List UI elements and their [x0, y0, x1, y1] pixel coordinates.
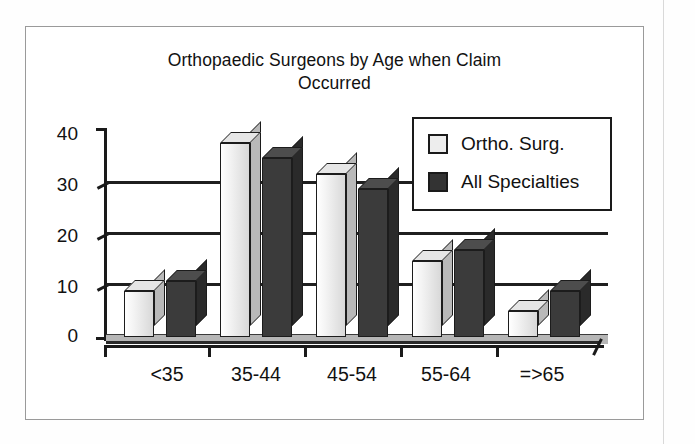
x-axis-line	[104, 345, 604, 348]
x-tick-mark-0	[104, 345, 107, 357]
bar-front-face	[550, 291, 580, 337]
bar-all-specialties-35-44[interactable]	[262, 158, 292, 337]
y-tick-label-20: 20	[18, 225, 78, 247]
bar-front-face	[124, 291, 154, 337]
x-label-lt35: <35	[124, 363, 210, 386]
bar-front-face	[316, 174, 346, 337]
legend-item-ortho-surg[interactable]: Ortho. Surg.	[428, 129, 565, 159]
bar-side-face	[580, 269, 591, 326]
page-right-rule	[663, 0, 664, 444]
bar-ortho-surg-35-44[interactable]	[220, 143, 250, 337]
bar-side-face	[388, 167, 399, 326]
chart-legend: Ortho. Surg. All Specialties	[412, 117, 612, 211]
x-label-65plus: =>65	[494, 363, 590, 386]
page-canvas: Orthopaedic Surgeons by Age when Claim O…	[0, 0, 695, 444]
legend-item-all-specialties[interactable]: All Specialties	[428, 167, 579, 197]
bar-all-specialties-65plus[interactable]	[550, 291, 580, 337]
bar-all-specialties-lt35[interactable]	[166, 281, 196, 337]
bar-ortho-surg-lt35[interactable]	[124, 291, 154, 337]
bar-all-specialties-55-64[interactable]	[454, 250, 484, 337]
legend-label-all-specialties: All Specialties	[461, 171, 579, 193]
chart-floor-front-edge	[106, 341, 600, 344]
bar-side-face	[346, 152, 357, 326]
x-tick-mark-3	[400, 345, 403, 357]
figure-frame: Orthopaedic Surgeons by Age when Claim O…	[25, 26, 644, 420]
bar-ortho-surg-65plus[interactable]	[508, 311, 538, 337]
y-tick-label-0: 0	[18, 325, 78, 347]
bar-front-face	[262, 158, 292, 337]
bar-side-face	[154, 269, 165, 326]
x-label-35-44: 35-44	[208, 363, 304, 386]
bar-front-face	[166, 281, 196, 337]
legend-swatch-icon-all-specialties	[428, 172, 448, 192]
bar-ortho-surg-55-64[interactable]	[412, 261, 442, 337]
y-tick-label-40: 40	[18, 123, 78, 145]
bar-front-face	[508, 311, 538, 337]
x-tick-mark-2	[304, 345, 307, 357]
x-tick-mark-4	[496, 345, 499, 357]
x-label-45-54: 45-54	[304, 363, 400, 386]
y-tick-mark-40	[96, 128, 107, 131]
bar-all-specialties-45-54[interactable]	[358, 189, 388, 337]
bar-side-face	[292, 136, 303, 326]
bar-front-face	[412, 261, 442, 337]
bar-side-face	[250, 121, 261, 326]
legend-swatch-icon-ortho-surg	[428, 134, 448, 154]
bar-front-face	[358, 189, 388, 337]
legend-label-ortho-surg: Ortho. Surg.	[461, 133, 565, 155]
y-tick-label-10: 10	[18, 276, 78, 298]
bar-front-face	[220, 143, 250, 337]
bar-ortho-surg-45-54[interactable]	[316, 174, 346, 337]
gridline-20	[106, 232, 608, 235]
bar-front-face	[454, 250, 484, 337]
x-label-55-64: 55-64	[398, 363, 494, 386]
plot-area: 40 30 20 10 0	[26, 27, 643, 419]
y-tick-label-30: 30	[18, 174, 78, 196]
x-tick-mark-1	[208, 345, 211, 357]
